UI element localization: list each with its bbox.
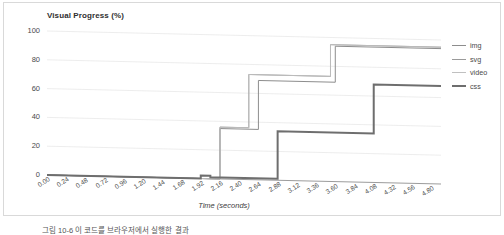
x-axis-tick-label: 1.68 [171,178,186,191]
legend-item-label: svg [470,56,481,63]
x-axis-tick-label: 1.92 [190,179,205,192]
x-axis-title: Time (seconds) [4,201,444,210]
x-axis-tick-label: 2.40 [228,180,243,193]
x-axis-tick-label: 0.48 [75,176,90,189]
legend-item-label: css [470,83,481,90]
chart-card: Visual Progress (%) 020406080100 0.000.2… [3,2,501,216]
x-axis-tick-label: 0.96 [113,177,128,190]
x-axis-tick-label: 4.08 [363,183,378,196]
x-axis-tick-label: 1.44 [152,178,167,191]
x-axis-tick-label: 3.12 [286,181,301,194]
x-axis-tick-label: 3.60 [325,182,340,195]
x-axis-tick-label: 0.24 [56,176,71,189]
x-axis-tick-label: 2.88 [267,181,282,194]
figure-container: Visual Progress (%) 020406080100 0.000.2… [0,0,504,235]
legend-line-icon [452,45,466,46]
figure-caption: 그림 10-6 이 코드를 브라우저에서 실행한 결과 [42,224,189,235]
x-axis-tick-label: 4.80 [421,184,436,197]
x-axis-tick-label: 4.32 [382,183,397,196]
legend-item-label: img [470,42,482,49]
x-axis-tick-label: 4.56 [401,184,416,197]
x-axis-tick-label: 3.84 [344,182,359,195]
legend-item-css[interactable]: css [452,80,487,94]
x-axis-tick-labels: 0.000.240.480.720.961.201.441.681.922.16… [4,3,502,217]
x-axis-tick-label: 2.16 [209,179,224,192]
x-axis-tick-label: 1.20 [132,177,147,190]
legend-item-label: video [470,69,487,76]
x-axis-tick-label: 0.00 [36,175,51,188]
legend-item-video[interactable]: video [452,66,487,80]
legend-line-icon [452,72,466,73]
legend-item-img[interactable]: img [452,39,487,53]
legend-item-svg[interactable]: svg [452,53,487,67]
x-axis-tick-label: 0.72 [94,177,109,190]
legend-line-icon [452,85,466,87]
chart-legend: imgsvgvideocss [452,39,487,93]
x-axis-tick-label: 2.64 [248,180,263,193]
x-axis-tick-label: 3.36 [305,181,320,194]
legend-line-icon [452,59,466,60]
